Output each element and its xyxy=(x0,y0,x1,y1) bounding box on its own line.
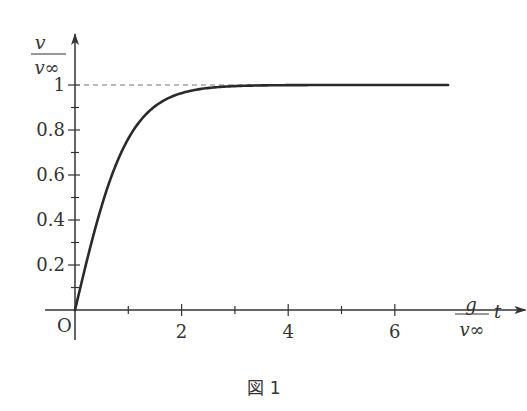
ticks-group xyxy=(68,85,395,316)
chart: 2460.20.40.60.81 v v∞ g v∞ t O 図 1 xyxy=(0,0,527,411)
x-tick-label: 4 xyxy=(282,321,293,342)
y-label-denominator: v∞ xyxy=(34,57,59,78)
x-tick-label: 2 xyxy=(176,321,187,342)
y-tick-label: 0.6 xyxy=(36,164,65,185)
origin-label: O xyxy=(57,315,72,336)
x-label-numerator: g xyxy=(465,294,477,315)
series-line-v-over-vinf xyxy=(75,85,448,310)
x-label-denominator: v∞ xyxy=(459,319,484,340)
x-tick-label: 6 xyxy=(389,321,400,342)
labels-group: 2460.20.40.60.81 xyxy=(36,74,400,342)
y-tick-label: 0.4 xyxy=(36,209,65,230)
x-label-variable: t xyxy=(494,301,502,322)
y-tick-label: 0.2 xyxy=(36,254,65,275)
y-tick-label: 0.8 xyxy=(36,119,65,140)
figure-caption: 図 1 xyxy=(247,378,280,398)
y-label-numerator: v xyxy=(35,31,46,53)
